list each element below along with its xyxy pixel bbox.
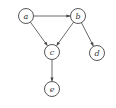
edge-b-c (57, 22, 74, 45)
node-label: a (24, 12, 29, 21)
edge-a-c (30, 22, 47, 45)
graph-svg: abcde (0, 0, 116, 108)
node-c: c (45, 45, 60, 60)
node-e: e (45, 82, 60, 97)
node-label: d (94, 49, 99, 58)
node-label: c (50, 48, 55, 57)
node-label: b (75, 12, 80, 21)
node-d: d (90, 46, 105, 61)
node-label: e (50, 85, 55, 94)
edge-b-d (81, 23, 93, 46)
graph-diagram: abcde (0, 0, 116, 108)
edges (30, 16, 93, 81)
node-b: b (71, 9, 86, 24)
node-a: a (19, 9, 34, 24)
nodes: abcde (19, 9, 105, 97)
